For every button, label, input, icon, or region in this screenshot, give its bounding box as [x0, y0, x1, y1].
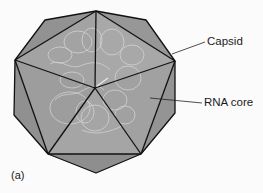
rna-core-label: RNA core	[204, 97, 253, 109]
capsid-leader-line	[172, 42, 205, 54]
virus-diagram: Capsid RNA core (a)	[0, 0, 263, 193]
capsid-label: Capsid	[207, 36, 243, 48]
panel-label: (a)	[11, 170, 24, 181]
